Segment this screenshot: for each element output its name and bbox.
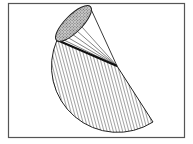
cone-development-diagram [0, 0, 193, 144]
